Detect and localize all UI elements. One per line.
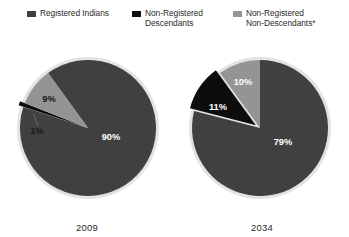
legend-swatch-non-registered-non-descendants <box>233 11 242 17</box>
pie-charts-container: 90%9%1% 2009 79%10%11% 2034 <box>0 40 349 237</box>
legend-item-non-registered-non-descendants: Non-Registered Non-Descendants* <box>233 8 316 28</box>
pie-2034-svg: 79%10%11% <box>175 40 349 237</box>
pie-2009-label-major: 90% <box>102 132 121 142</box>
pie-chart-2034: 79%10%11% 2034 <box>175 40 349 237</box>
pie-2034-label-dark: 11% <box>209 102 228 112</box>
chart-legend: Registered Indians Non-Registered Descen… <box>0 6 349 40</box>
pie-2009-svg: 90%9%1% <box>0 40 174 237</box>
legend-label-non-registered-descendants: Non-Registered Descendants <box>145 8 203 28</box>
pie-2009-year-label: 2009 <box>0 222 174 233</box>
legend-item-registered-indians: Registered Indians <box>27 8 109 18</box>
pie-chart-2009: 90%9%1% 2009 <box>0 40 174 237</box>
pie-2034-label-major: 79% <box>274 137 293 147</box>
legend-item-non-registered-descendants: Non-Registered Descendants <box>132 8 203 28</box>
pie-chart-figure: Registered Indians Non-Registered Descen… <box>0 0 349 237</box>
pie-2009-label-dark: 1% <box>30 126 44 136</box>
pie-2034-year-label: 2034 <box>175 222 349 233</box>
pie-2034-label-light: 10% <box>234 77 253 87</box>
legend-swatch-registered-indians <box>27 11 36 17</box>
legend-swatch-non-registered-descendants <box>132 11 141 17</box>
legend-label-non-registered-non-descendants: Non-Registered Non-Descendants* <box>246 8 316 28</box>
legend-label-registered-indians: Registered Indians <box>40 8 109 18</box>
pie-2009-label-light: 9% <box>42 94 56 104</box>
